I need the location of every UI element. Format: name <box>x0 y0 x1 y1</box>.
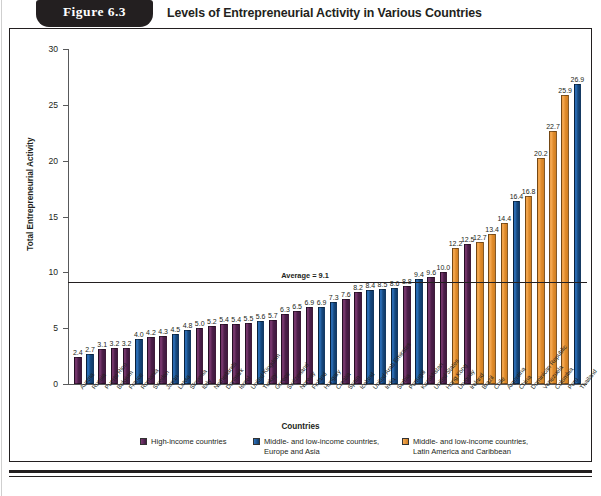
bar-group: 8.4 <box>366 49 374 384</box>
x-axis-title: Countries <box>10 422 591 431</box>
bar: 16.4 <box>513 201 521 384</box>
bar-group: 3.2 <box>111 49 119 384</box>
bar-group: 2.7 <box>86 49 94 384</box>
bar-group: 3.1 <box>98 49 106 384</box>
legend-label: Middle- and low-income countries,Europe … <box>264 437 379 456</box>
bar: 13.4 <box>488 234 496 384</box>
bar-value-label: 10.0 <box>437 264 451 272</box>
bar-group: 6.3 <box>281 49 289 384</box>
legend-swatch <box>253 438 260 445</box>
bar-value-label: 3.2 <box>122 340 132 348</box>
bar-value-label: 2.4 <box>73 349 83 357</box>
bar-value-label: 4.2 <box>146 329 156 337</box>
legend-swatch <box>402 438 409 445</box>
bar-value-label: 8.2 <box>353 284 363 292</box>
bar-value-label: 12.7 <box>473 234 487 242</box>
figure-number-label: Figure 6.3 <box>36 4 153 20</box>
bar: 5.2 <box>208 326 216 384</box>
legend-label-line: Latin America and Caribbean <box>413 447 528 457</box>
bar-group: 5.7 <box>269 49 277 384</box>
bar-group: 5.4 <box>220 49 228 384</box>
bar-group: 3.2 <box>123 49 131 384</box>
bar-value-label: 5.7 <box>268 312 278 320</box>
bar-value-label: 6.9 <box>304 299 314 307</box>
y-axis-tick-label: 5 <box>32 323 58 333</box>
bar: 25.9 <box>561 95 569 384</box>
bar-value-label: 4.3 <box>158 328 168 336</box>
chart-legend: High-income countriesMiddle- and low-inc… <box>10 437 591 461</box>
bar-value-label: 4.5 <box>170 326 180 334</box>
bar-value-label: 26.9 <box>571 76 585 84</box>
bar-value-label: 9.6 <box>426 269 436 277</box>
bar-group: 25.9 <box>561 49 569 384</box>
bar-value-label: 5.0 <box>195 320 205 328</box>
bar-group: 4.2 <box>147 49 155 384</box>
bar-value-label: 5.4 <box>231 316 241 324</box>
figure-header: Figure 6.3 Levels of Entrepreneurial Act… <box>0 0 601 30</box>
bar-group: 9.4 <box>415 49 423 384</box>
bar-group: 22.7 <box>549 49 557 384</box>
bar-group: 4.0 <box>135 49 143 384</box>
bar-value-label: 16.8 <box>522 188 536 196</box>
bar-group: 12.2 <box>452 49 460 384</box>
bar-value-label: 2.7 <box>85 346 95 354</box>
bar-group: 4.3 <box>159 49 167 384</box>
bar-group: 12.7 <box>476 49 484 384</box>
y-axis-tick-label: 30 <box>32 44 58 54</box>
bar-group: 8.5 <box>379 49 387 384</box>
bar-group: 2.4 <box>74 49 82 384</box>
bar-group: 10.0 <box>440 49 448 384</box>
bar: 20.2 <box>537 158 545 384</box>
y-axis-tick <box>63 384 68 385</box>
bar-value-label: 14.4 <box>497 215 511 223</box>
footer-rule-thick <box>9 470 592 473</box>
bar-value-label: 5.5 <box>244 315 254 323</box>
bar-group: 8.8 <box>403 49 411 384</box>
legend-label-line: Middle- and low-income countries, <box>264 437 379 447</box>
bar-group: 4.5 <box>172 49 180 384</box>
bar-value-label: 7.6 <box>341 291 351 299</box>
bar: 8.8 <box>403 286 411 384</box>
bar-value-label: 3.1 <box>97 341 107 349</box>
bar-group: 8.6 <box>391 49 399 384</box>
legend-label-line: High-income countries <box>151 437 227 447</box>
figure-number-tab: Figure 6.3 <box>36 0 153 27</box>
y-axis-title: Total Entrepreneurial Activity <box>26 137 35 250</box>
footer-rule-thin <box>9 476 592 477</box>
average-line <box>68 282 587 283</box>
bar-group: 7.3 <box>330 49 338 384</box>
bar-group: 16.4 <box>513 49 521 384</box>
bar-value-label: 4.0 <box>134 331 144 339</box>
bar-series: 2.42.73.13.23.24.04.24.34.54.85.05.25.45… <box>68 49 587 384</box>
bar: 26.9 <box>574 84 582 384</box>
legend-label-line: Middle- and low-income countries, <box>413 437 528 447</box>
bar-group: 6.5 <box>293 49 301 384</box>
bar-group: 7.6 <box>342 49 350 384</box>
bar: 2.4 <box>74 357 82 384</box>
bar-value-label: 22.7 <box>546 123 560 131</box>
bar-group: 5.2 <box>208 49 216 384</box>
bar-value-label: 25.9 <box>558 87 572 95</box>
bar: 22.7 <box>549 131 557 384</box>
bar-group: 13.4 <box>488 49 496 384</box>
bar-value-label: 7.3 <box>329 294 339 302</box>
bar-group: 5.0 <box>196 49 204 384</box>
bar-group: 8.2 <box>354 49 362 384</box>
y-axis-tick-label: 15 <box>32 212 58 222</box>
chart-panel: Total Entrepreneurial Activity 051015202… <box>9 28 592 462</box>
bar-group: 6.9 <box>306 49 314 384</box>
bar: 14.4 <box>501 223 509 384</box>
bar-value-label: 6.9 <box>317 299 327 307</box>
y-axis-tick-label: 10 <box>32 267 58 277</box>
bar-value-label: 4.8 <box>183 322 193 330</box>
plot-area: 2.42.73.13.23.24.04.24.34.54.85.05.25.45… <box>68 49 587 384</box>
bar-group: 5.6 <box>257 49 265 384</box>
bar-group: 14.4 <box>501 49 509 384</box>
average-line-label: Average = 9.1 <box>281 271 329 280</box>
bar-group: 9.6 <box>427 49 435 384</box>
bar: 16.8 <box>525 196 533 384</box>
bar-group: 20.2 <box>537 49 545 384</box>
bar-value-label: 6.3 <box>280 306 290 314</box>
bar-value-label: 3.2 <box>110 340 120 348</box>
bar-value-label: 20.2 <box>534 150 548 158</box>
